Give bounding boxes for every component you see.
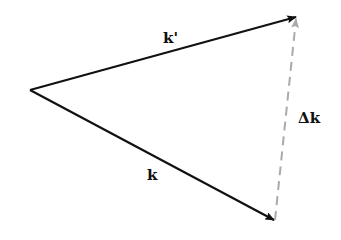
delta-k-arrow (275, 19, 296, 220)
k-arrow (30, 90, 274, 220)
label-k-prime: k' (163, 29, 178, 47)
k-prime-arrow (30, 17, 296, 90)
label-k: k (147, 166, 158, 184)
vector-delta-k (275, 19, 296, 220)
vector-k (30, 90, 274, 220)
vector-diagram: k' k Δk (0, 0, 341, 240)
vector-k-prime (30, 17, 296, 90)
label-delta-k: Δk (298, 109, 321, 127)
